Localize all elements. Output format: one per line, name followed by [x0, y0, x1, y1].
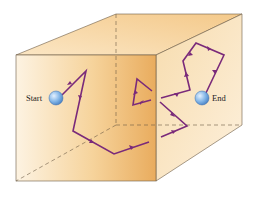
end-ball-icon: [195, 91, 209, 105]
end-label: End: [212, 93, 226, 103]
start-ball-icon: [49, 91, 63, 105]
start-label: Start: [26, 93, 43, 103]
random-walk-diagram: Start End: [0, 0, 255, 201]
